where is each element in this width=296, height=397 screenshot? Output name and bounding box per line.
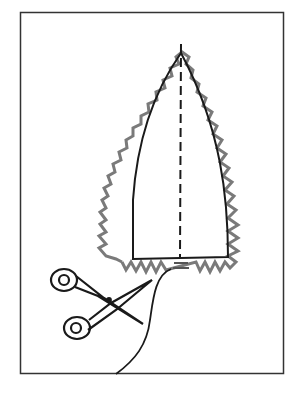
center-dashed-line — [180, 44, 181, 258]
scissors-icon — [51, 269, 152, 339]
zigzag-pinked-edge — [99, 52, 238, 272]
frame — [21, 13, 284, 374]
sewing-illustration — [0, 0, 296, 397]
